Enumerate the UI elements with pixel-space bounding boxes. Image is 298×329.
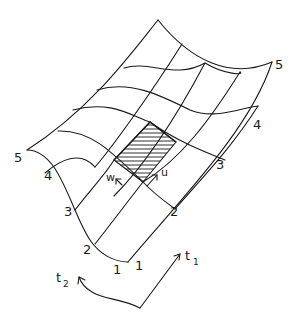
grid-lines-t2 <box>58 63 258 209</box>
label-left-2: 2 <box>83 242 91 257</box>
t1-subscript: 1 <box>193 257 199 267</box>
axis-label-t1: t 1 <box>185 248 199 267</box>
label-right-5: 5 <box>275 57 283 72</box>
label-left-1: 1 <box>113 262 121 277</box>
t1-base: t <box>185 248 190 263</box>
vector-w-label: w <box>106 171 115 184</box>
label-right-3: 3 <box>216 157 224 172</box>
label-right-4: 4 <box>253 117 261 132</box>
t2-subscript: 2 <box>63 279 69 289</box>
label-left-3: 3 <box>64 204 72 219</box>
vector-u-label: u <box>161 166 168 179</box>
arrow-t2-icon <box>79 277 140 308</box>
arrow-t1-icon <box>140 254 180 308</box>
axis-arrows <box>78 254 180 308</box>
label-right-2: 2 <box>170 204 178 219</box>
label-right-1: 1 <box>135 258 143 273</box>
axis-label-t2: t 2 <box>56 270 69 289</box>
t2-base: t <box>56 270 61 285</box>
vector-w: w <box>106 171 122 185</box>
left-edge-labels: 5 4 3 2 1 <box>14 150 121 277</box>
label-left-5: 5 <box>14 150 22 165</box>
surface-diagram: w u 5 4 3 2 1 1 2 3 4 5 t 1 t 2 <box>0 0 298 329</box>
arrow-w-icon <box>116 179 122 185</box>
label-left-4: 4 <box>44 168 52 183</box>
